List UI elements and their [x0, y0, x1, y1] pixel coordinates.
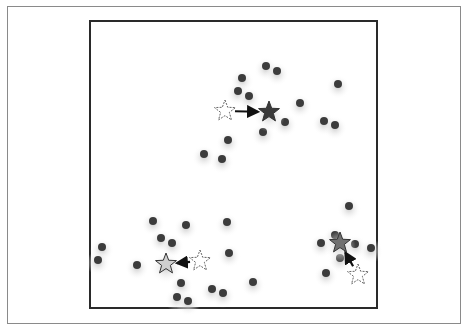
data-point — [317, 239, 325, 247]
data-point — [182, 221, 190, 229]
data-point — [245, 92, 253, 100]
data-point — [168, 239, 176, 247]
data-point — [249, 278, 257, 286]
data-point — [334, 80, 342, 88]
scatter-plot — [0, 0, 470, 331]
data-point — [200, 150, 208, 158]
arrow-icon — [177, 262, 190, 263]
data-point — [219, 289, 227, 297]
data-point — [345, 202, 353, 210]
data-point — [218, 155, 226, 163]
data-point — [234, 87, 242, 95]
arrow-icon — [235, 111, 258, 112]
data-point — [184, 297, 192, 305]
data-point — [225, 249, 233, 257]
old-centroid-star-icon — [348, 264, 369, 284]
data-point — [320, 117, 328, 125]
data-point — [273, 67, 281, 75]
data-point — [133, 261, 141, 269]
data-point — [331, 121, 339, 129]
data-point — [296, 99, 304, 107]
data-point — [367, 244, 375, 252]
data-point — [94, 256, 102, 264]
data-point — [149, 217, 157, 225]
data-point — [208, 285, 216, 293]
data-point — [322, 269, 330, 277]
data-point — [223, 218, 231, 226]
data-point — [98, 243, 106, 251]
point-glow-layer — [86, 57, 383, 316]
data-point — [157, 234, 165, 242]
data-point — [173, 293, 181, 301]
data-point — [224, 136, 232, 144]
data-point — [238, 74, 246, 82]
old-centroid-star-icon — [190, 250, 211, 270]
data-point — [262, 62, 270, 70]
data-point — [177, 279, 185, 287]
